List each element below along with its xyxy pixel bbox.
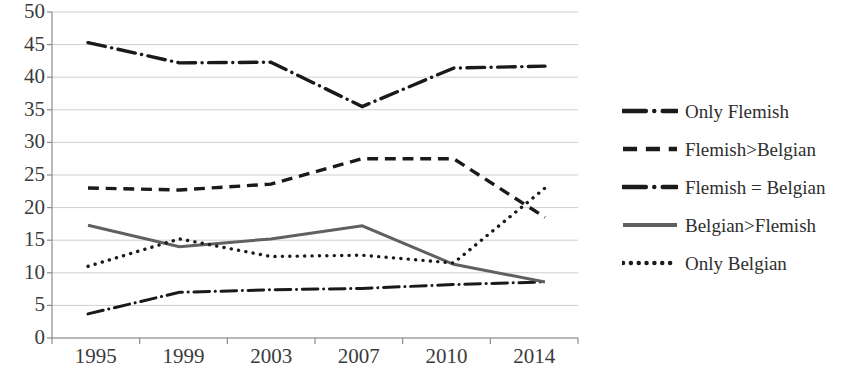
legend-label: Only Belgian — [685, 254, 787, 273]
x-axis-label: 2014 — [513, 346, 555, 367]
x-axis-label: 1995 — [75, 346, 117, 367]
y-axis-label: 35 — [5, 99, 45, 120]
legend-item[interactable]: Only Belgian — [622, 244, 843, 282]
y-axis-label: 45 — [5, 34, 45, 55]
series-line-3 — [88, 225, 545, 282]
y-axis-label: 40 — [5, 66, 45, 87]
y-axis-label: 15 — [5, 229, 45, 250]
plot-area — [0, 0, 610, 373]
legend-item[interactable]: Belgian>Flemish — [622, 206, 843, 244]
y-axis-label: 20 — [5, 197, 45, 218]
y-axis-label: 25 — [5, 164, 45, 185]
chart-legend: Only FlemishFlemish>BelgianFlemish = Bel… — [622, 92, 843, 282]
solid-gray-key — [622, 218, 678, 232]
x-axis-label: 1999 — [163, 346, 205, 367]
legend-label: Belgian>Flemish — [685, 216, 816, 235]
x-axis-label: 2007 — [338, 346, 380, 367]
x-axis-label: 2003 — [250, 346, 292, 367]
dash-dot-key — [622, 104, 678, 118]
dashed-key — [622, 142, 678, 156]
series-line-2 — [88, 282, 545, 314]
legend-item[interactable]: Flemish = Belgian — [622, 168, 843, 206]
plot-svg — [0, 0, 610, 373]
series-line-4 — [88, 188, 545, 266]
y-axis-label: 5 — [5, 294, 45, 315]
series-line-0 — [88, 43, 545, 107]
legend-item[interactable]: Flemish>Belgian — [622, 130, 843, 168]
line-chart: 50454035302520151050 1995199920032007201… — [0, 0, 843, 373]
dash-dot-key — [622, 180, 678, 194]
legend-label: Flemish = Belgian — [685, 178, 826, 197]
dotted-key — [622, 256, 678, 270]
legend-item[interactable]: Only Flemish — [622, 92, 843, 130]
y-axis-label: 50 — [5, 1, 45, 22]
y-axis-label: 0 — [5, 327, 45, 348]
x-axis-label: 2010 — [426, 346, 468, 367]
y-axis-label: 10 — [5, 262, 45, 283]
y-axis-label: 30 — [5, 131, 45, 152]
legend-label: Only Flemish — [685, 102, 789, 121]
series-line-1 — [88, 159, 545, 218]
y-axis-ticks: 50454035302520151050 — [0, 0, 45, 373]
legend-label: Flemish>Belgian — [685, 140, 816, 159]
